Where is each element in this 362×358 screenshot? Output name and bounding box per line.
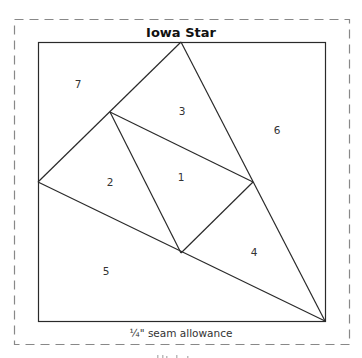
line-center-bottom-edge (181, 182, 253, 253)
diagram-title: Iowa Star (146, 25, 216, 40)
piece-label-7: 7 (75, 78, 82, 90)
iowa-star-pattern-diagram: Iowa Star 1 2 3 4 5 6 7 ¼" seam allowanc… (0, 0, 362, 358)
piece-label-5: 5 (103, 265, 110, 277)
seam-allowance-label: ¼" seam allowance (130, 327, 233, 339)
line-center-left-edge (110, 112, 181, 253)
piece-label-3: 3 (179, 105, 186, 117)
piece-label-4: 4 (251, 246, 258, 258)
line-left-to-bottom-right (38, 182, 325, 321)
piece-label-2: 2 (107, 176, 114, 188)
piece-label-1: 1 (178, 171, 185, 183)
piece-label-6: 6 (274, 124, 281, 136)
line-top-to-left (38, 42, 181, 182)
